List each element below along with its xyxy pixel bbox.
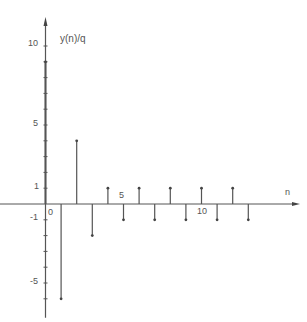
stem-marker: [231, 187, 234, 190]
stem-marker: [169, 187, 172, 190]
stem-plot: y(n)/q n 10 5 1 -1 -5 0 5 10: [0, 0, 307, 322]
stem-marker: [75, 139, 78, 142]
plot-area: [0, 0, 307, 322]
stem-marker: [91, 234, 94, 237]
stem-marker: [44, 60, 47, 63]
y-tick-5: 5: [33, 118, 38, 128]
stem-marker: [138, 187, 141, 190]
y-tick-minus-5: -5: [30, 276, 38, 286]
y-axis-label: y(n)/q: [60, 33, 86, 44]
x-tick-5: 5: [119, 190, 124, 200]
x-axis-label: n: [285, 187, 290, 197]
y-tick-1: 1: [34, 181, 39, 191]
stem-marker: [247, 218, 250, 221]
stem-marker: [107, 187, 110, 190]
stem-marker: [216, 218, 219, 221]
stem-marker: [122, 218, 125, 221]
y-tick-10: 10: [28, 38, 38, 48]
y-axis-arrow-icon: [44, 17, 48, 26]
stem-marker: [153, 218, 156, 221]
x-tick-0: 0: [48, 207, 53, 217]
stem-marker: [185, 218, 188, 221]
y-tick-minus-1: -1: [30, 212, 38, 222]
x-axis-arrow-icon: [292, 202, 300, 206]
x-tick-10: 10: [197, 206, 207, 216]
stem-marker: [200, 187, 203, 190]
stem-marker: [60, 297, 63, 300]
